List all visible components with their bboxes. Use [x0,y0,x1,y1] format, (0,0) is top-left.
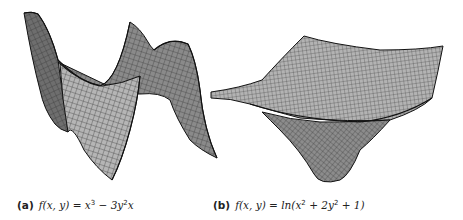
caption-a-term: − 3y [95,199,123,211]
caption-b-term: + 1) [338,199,364,211]
caption-b-tag: (b) [213,199,230,211]
figure: (a)f(x, y) = x3 − 3y2x (b)f(x, y) = ln(x… [0,0,463,220]
caption-b-equals: = [266,199,281,211]
caption-a-lhs: f(x, y) [39,199,70,211]
caption-b-term: + 2y [306,199,334,211]
caption-b: (b)f(x, y) = ln(x2 + 2y2 + 1) [213,199,365,211]
caption-a-tag: (a) [17,199,34,211]
caption-a-equals: = [69,199,84,211]
caption-a-term: x [128,199,134,211]
caption-b-term: ln(x [281,199,301,211]
caption-a: (a)f(x, y) = x3 − 3y2x [17,199,134,211]
surface-plot-a [0,0,463,220]
caption-b-lhs: f(x, y) [235,199,266,211]
